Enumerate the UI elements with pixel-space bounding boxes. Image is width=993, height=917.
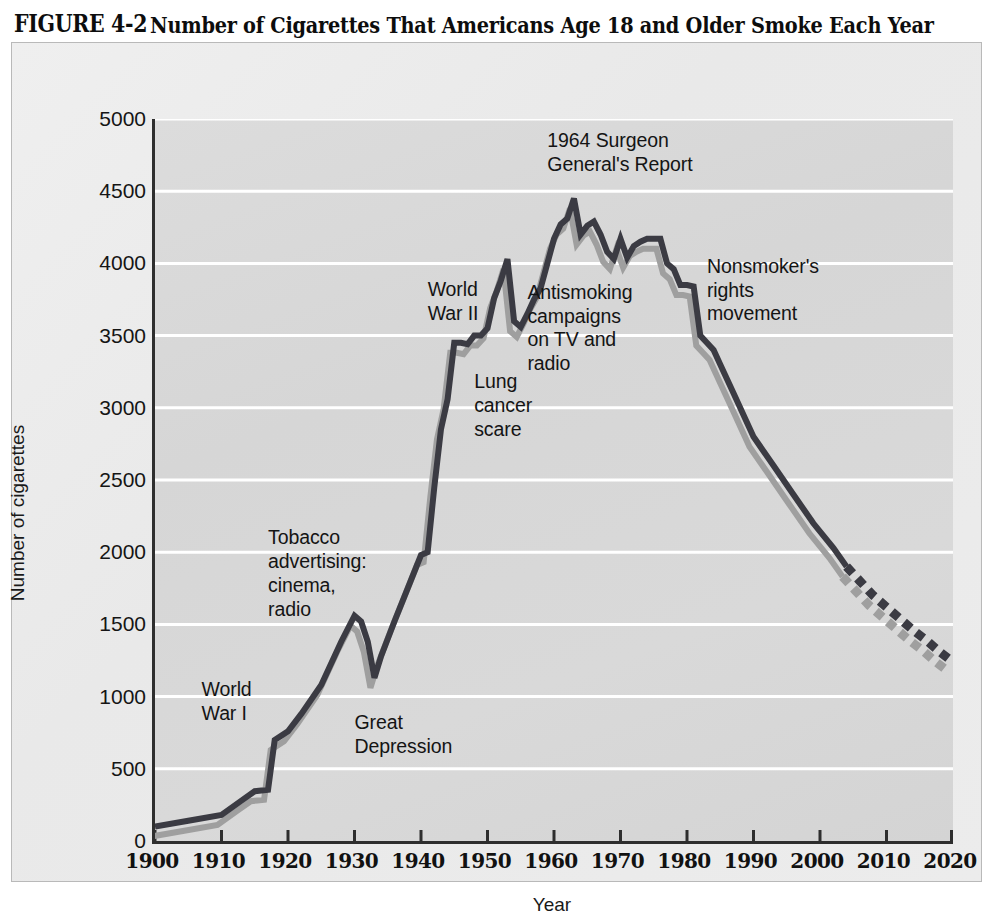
x-tick-label: 1920 [250,849,320,873]
figure-plate: Number of cigarettes 0500100015002000250… [11,42,982,882]
annotation-antismoking-campaigns: Antismoking campaigns on TV and radio [527,281,632,376]
annotation-world-war-ii: World War II [428,278,479,326]
x-axis-tick-labels: 1900191019201930194019501960197019801990… [152,849,952,883]
y-tick-label: 500 [84,758,146,779]
y-tick-label: 3500 [84,325,146,346]
x-tick-label: 1980 [649,849,719,873]
series-line-2 [847,567,953,662]
x-tick-label: 2000 [782,849,852,873]
y-axis-title: Number of cigarettes [26,3,48,343]
annotation-great-depression: Great Depression [355,711,453,759]
y-tick-label: 1500 [84,613,146,634]
y-tick-label: 5000 [84,108,146,129]
x-axis-tick-marks [155,830,952,841]
x-tick-label: 2020 [915,849,985,873]
x-tick-label: 1900 [117,849,187,873]
annotation-tobacco-advertising: Tobacco advertising: cinema, radio [268,526,367,621]
x-tick-label: 1940 [383,849,453,873]
x-tick-label: 1910 [184,849,254,873]
x-tick-label: 1930 [317,849,387,873]
annotation-surgeon-general-report: 1964 Surgeon General's Report [547,129,692,177]
x-tick-label: 1950 [450,849,520,873]
gridlines [155,119,953,769]
y-tick-label: 3000 [84,397,146,418]
y-tick-label: 1000 [84,686,146,707]
annotation-world-war-i: World War I [202,678,252,726]
y-axis-tick-labels: 0500100015002000250030003500400045005000 [78,43,146,843]
figure-title: Number of Cigarettes That Americans Age … [150,11,934,38]
y-tick-label: 4000 [84,252,146,273]
y-tick-label: 2000 [84,541,146,562]
annotation-nonsmokers-rights: Nonsmoker's rights movement [707,255,819,326]
x-tick-label: 1960 [516,849,586,873]
annotation-lung-cancer-scare: Lung cancer scare [474,370,532,441]
y-tick-label: 0 [84,830,146,851]
x-tick-label: 2010 [849,849,919,873]
x-axis-title: Year [152,894,952,916]
y-tick-label: 4500 [84,180,146,201]
x-tick-label: 1970 [583,849,653,873]
x-tick-label: 1990 [716,849,786,873]
y-axis-title-text: Number of cigarettes [7,425,29,601]
figure-header: FIGURE 4-2 Number of Cigarettes That Ame… [0,2,993,38]
chart-svg [155,119,953,841]
y-tick-label: 2500 [84,469,146,490]
plot-area: World War ITobacco advertising: cinema, … [152,119,953,844]
